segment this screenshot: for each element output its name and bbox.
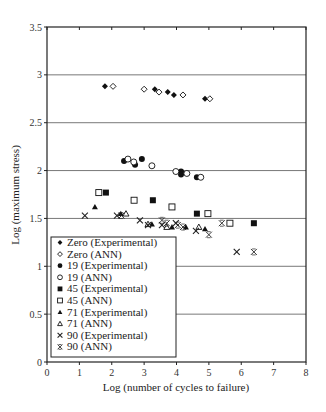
diamond-open-marker — [180, 92, 186, 98]
square-open-marker — [205, 211, 211, 217]
square-open-marker — [96, 190, 102, 196]
circle-open-marker — [58, 275, 63, 280]
x-thin-marker — [251, 249, 257, 255]
x-tick-label: 2 — [109, 367, 114, 378]
y-tick-labels: 00.511.522.533.5 — [30, 22, 43, 368]
x-tick-label: 5 — [206, 367, 211, 378]
x-thin-marker — [175, 222, 181, 228]
circle-filled-marker — [139, 156, 145, 162]
square-filled-marker — [194, 211, 200, 217]
x-tick-label: 7 — [271, 367, 276, 378]
square-open-marker — [58, 298, 63, 303]
square-open-marker — [131, 197, 137, 203]
x-thin-marker — [219, 220, 225, 226]
square-filled-marker — [58, 287, 63, 292]
x-tick-labels: 012345678 — [45, 367, 309, 378]
y-tick-label: 0.5 — [30, 309, 43, 320]
y-tick-label: 3.5 — [30, 22, 43, 33]
x-tick-label: 6 — [239, 367, 244, 378]
circle-open-marker — [198, 174, 204, 180]
diamond-open-marker — [110, 83, 116, 89]
x-tick-label: 8 — [304, 367, 309, 378]
triangle-filled-marker — [202, 226, 208, 231]
y-tick-label: 1.5 — [30, 213, 43, 224]
x-marker — [82, 213, 88, 219]
legend-entry: 90 (ANN) — [67, 340, 112, 353]
x-axis-title: Log (number of cycles to failure) — [103, 381, 250, 394]
y-tick-label: 0 — [37, 357, 42, 368]
legend: Zero (Experimental)Zero (ANN)19 (Experim… — [51, 236, 176, 357]
diamond-open-marker — [207, 96, 213, 102]
x-tick-label: 3 — [142, 367, 147, 378]
y-tick-label: 1 — [37, 261, 42, 272]
y-tick-label: 2.5 — [30, 117, 43, 128]
circle-filled-marker — [58, 263, 63, 268]
diamond-open-marker — [141, 86, 147, 92]
square-filled-marker — [251, 220, 257, 226]
circle-open-marker — [125, 156, 131, 162]
circle-open-marker — [173, 169, 179, 175]
chart: 00.511.522.533.5 012345678 Log (number o… — [0, 0, 326, 412]
x-thin-marker — [206, 232, 212, 238]
circle-open-marker — [149, 163, 155, 169]
x-tick-label: 0 — [45, 367, 50, 378]
y-axis-title: Log (maximum stress) — [9, 145, 22, 245]
diamond-filled-marker — [102, 83, 108, 89]
square-open-marker — [227, 220, 233, 226]
circle-open-marker — [184, 170, 190, 176]
triangle-filled-marker — [92, 204, 98, 209]
y-tick-label: 2 — [37, 165, 42, 176]
square-open-marker — [169, 204, 175, 210]
square-filled-marker — [103, 190, 109, 196]
square-filled-marker — [150, 197, 156, 203]
y-tick-label: 3 — [37, 69, 42, 80]
diamond-filled-marker — [171, 92, 177, 98]
data-points — [82, 83, 257, 255]
x-marker — [234, 249, 240, 255]
x-tick-label: 1 — [77, 367, 82, 378]
circle-open-marker — [131, 159, 137, 165]
x-tick-label: 4 — [174, 367, 179, 378]
diamond-filled-marker — [165, 89, 171, 95]
